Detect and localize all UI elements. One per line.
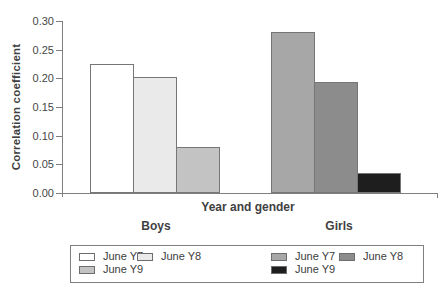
- legend-swatch: [271, 266, 287, 274]
- legend-box: June Y7June Y8June Y7June Y8June Y9June …: [70, 245, 424, 283]
- y-tick: [56, 21, 62, 22]
- legend-entry: June Y8: [339, 250, 403, 263]
- legend-entry: June Y7: [271, 250, 335, 263]
- y-tick: [56, 107, 62, 108]
- legend-swatch: [271, 253, 287, 261]
- y-tick: [56, 193, 62, 194]
- y-tick-label: 0.00: [8, 187, 54, 200]
- legend-swatch: [339, 253, 355, 261]
- y-tick: [56, 50, 62, 51]
- y-tick-label: 0.15: [8, 101, 54, 114]
- y-tick-label: 0.30: [8, 15, 54, 28]
- x-axis-line: [62, 193, 438, 194]
- legend-label: June Y8: [161, 250, 201, 263]
- y-tick: [56, 78, 62, 79]
- bar-boys-june-y8: [133, 77, 177, 193]
- bar-girls-june-y8: [314, 82, 358, 193]
- legend-entry: June Y8: [137, 250, 201, 263]
- bar-girls-june-y7: [271, 32, 315, 193]
- legend-entry: June Y7: [79, 250, 143, 263]
- legend-swatch: [79, 253, 95, 261]
- y-tick: [56, 164, 62, 165]
- legend-entry: June Y9: [79, 263, 143, 276]
- x-axis-title: Year and gender: [201, 200, 294, 214]
- bar-girls-june-y9: [357, 173, 401, 193]
- legend-label: June Y9: [103, 263, 143, 276]
- legend-label: June Y7: [295, 250, 335, 263]
- y-tick-label: 0.25: [8, 44, 54, 57]
- group-label-boys: Boys: [141, 219, 170, 233]
- bar-boys-june-y7: [90, 64, 134, 193]
- bar-boys-june-y9: [176, 147, 220, 193]
- group-label-girls: Girls: [325, 219, 352, 233]
- correlation-bar-chart-figure: Correlation coefficient Year and gender …: [0, 0, 447, 299]
- y-tick: [56, 136, 62, 137]
- legend-swatch: [137, 253, 153, 261]
- y-tick-label: 0.20: [8, 72, 54, 85]
- y-tick-label: 0.05: [8, 158, 54, 171]
- legend-swatch: [79, 266, 95, 274]
- legend-entry: June Y9: [271, 263, 335, 276]
- x-axis-end-tick: [437, 193, 438, 198]
- y-axis-line: [62, 21, 63, 197]
- legend-label: June Y8: [363, 250, 403, 263]
- y-tick-label: 0.10: [8, 130, 54, 143]
- legend-label: June Y9: [295, 263, 335, 276]
